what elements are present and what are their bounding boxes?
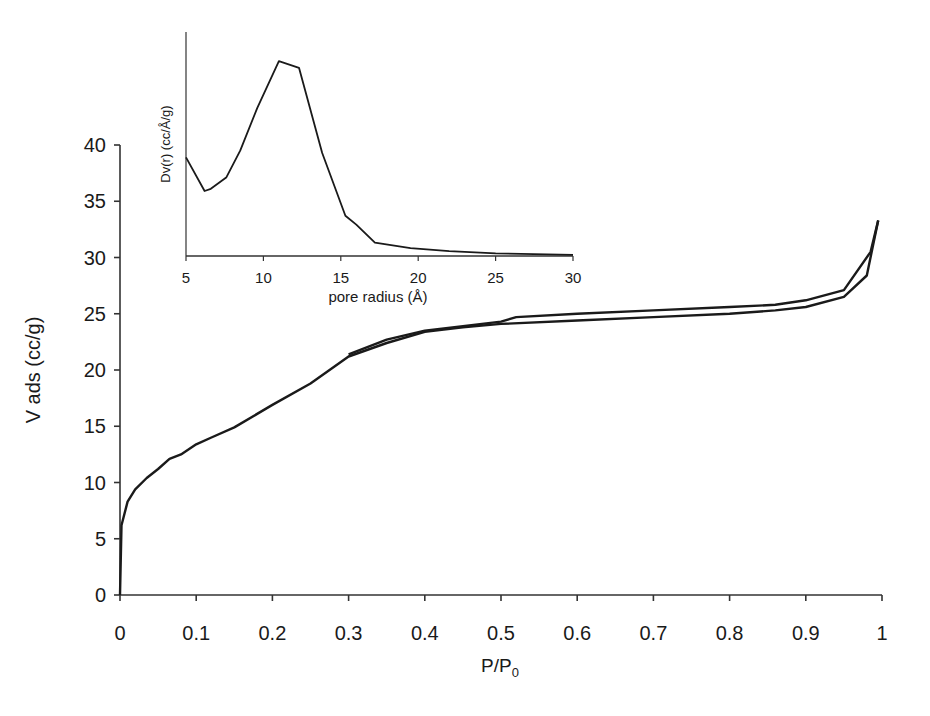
main-y-ticks: 0510152025303540	[84, 134, 120, 606]
inset-x-tick-label: 20	[410, 269, 427, 286]
main-axes: 0510152025303540 00.10.20.30.40.50.60.70…	[84, 134, 888, 644]
inset-x-tick-label: 10	[255, 269, 272, 286]
chart: 0510152025303540 00.10.20.30.40.50.60.70…	[0, 0, 930, 716]
inset-series	[186, 61, 573, 255]
main-y-tick-label: 15	[84, 415, 106, 437]
main-x-ticks: 00.10.20.30.40.50.60.70.80.91	[114, 595, 887, 644]
inset-x-ticks: 51015202530	[182, 256, 582, 286]
inset-x-tick-label: 5	[182, 269, 190, 286]
main-y-tick-label: 20	[84, 359, 106, 381]
inset-x-tick-label: 30	[565, 269, 582, 286]
main-x-tick-label: 0.1	[182, 622, 210, 644]
main-y-tick-label: 25	[84, 303, 106, 325]
inset-axes: 51015202530	[182, 32, 582, 286]
main-x-tick-label: 0.4	[411, 622, 439, 644]
main-y-tick-label: 0	[95, 584, 106, 606]
main-x-tick-label: 0.7	[639, 622, 667, 644]
main-x-tick-label: 0.2	[258, 622, 286, 644]
inset-x-tick-label: 15	[332, 269, 349, 286]
main-x-axis-label-subscript: 0	[512, 665, 519, 680]
inset-x-axis-label: pore radius (Å)	[328, 288, 427, 305]
series-desorption	[349, 220, 879, 354]
main-x-tick-label: 0.3	[335, 622, 363, 644]
main-y-tick-label: 35	[84, 190, 106, 212]
main-x-tick-label: 0.6	[563, 622, 591, 644]
main-x-tick-label: 0.8	[716, 622, 744, 644]
inset-y-axis-label: Dv(r) (cc/Å/g)	[158, 105, 173, 182]
main-y-axis-label: V ads (cc/g)	[22, 317, 44, 424]
main-y-tick-label: 40	[84, 134, 106, 156]
series-pore-size-distribution	[186, 61, 573, 255]
main-y-tick-label: 30	[84, 247, 106, 269]
main-x-tick-label: 0	[114, 622, 125, 644]
main-y-tick-label: 5	[95, 528, 106, 550]
main-x-tick-label: 0.9	[792, 622, 820, 644]
main-x-tick-label: 1	[876, 622, 887, 644]
main-x-axis-label: P/P0	[481, 655, 519, 680]
inset-x-tick-label: 25	[487, 269, 504, 286]
main-x-tick-label: 0.5	[487, 622, 515, 644]
main-x-axis-label-main: P/P	[481, 655, 512, 676]
main-y-tick-label: 10	[84, 472, 106, 494]
